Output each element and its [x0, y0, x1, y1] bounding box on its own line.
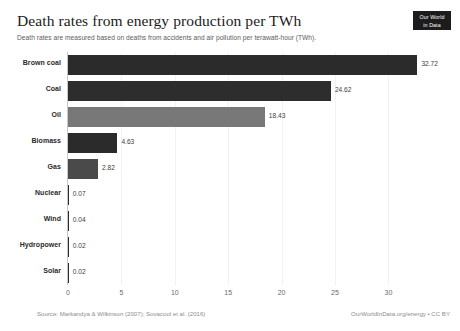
bar-value-label: 18.43	[269, 112, 286, 119]
bar[interactable]	[68, 107, 265, 127]
chart-container: Death rates from energy production per T…	[0, 0, 460, 331]
bar-row[interactable]: Hydropower0.02	[0, 235, 460, 261]
bar-category-label: Solar	[0, 267, 61, 274]
bar-category-label: Hydropower	[0, 241, 61, 248]
bar[interactable]	[68, 237, 69, 257]
our-world-in-data-logo[interactable]: Our World in Data	[413, 11, 451, 30]
bar-value-label: 0.07	[73, 190, 86, 197]
bar-category-label: Oil	[0, 111, 61, 118]
bar-value-label: 2.82	[102, 164, 115, 171]
bar[interactable]	[68, 263, 69, 283]
bar-row[interactable]: Wind0.04	[0, 209, 460, 235]
bar-row[interactable]: Oil18.43	[0, 105, 460, 131]
bar-value-label: 32.72	[421, 60, 438, 67]
chart-header: Death rates from energy production per T…	[17, 12, 397, 41]
attribution-note[interactable]: OurWorldInData.org/energy • CC BY	[351, 310, 450, 317]
x-axis-tick-label: 15	[224, 289, 232, 296]
bar[interactable]	[68, 159, 98, 179]
x-axis: 051015202530	[0, 289, 460, 303]
logo-line-2: in Data	[413, 22, 451, 30]
bar-row[interactable]: Nuclear0.07	[0, 183, 460, 209]
bar[interactable]	[68, 211, 69, 231]
bar-value-label: 4.63	[121, 138, 134, 145]
logo-line-1: Our World	[413, 14, 451, 22]
bar-category-label: Wind	[0, 215, 61, 222]
x-axis-tick-label: 10	[171, 289, 179, 296]
x-axis-tick-label: 5	[119, 289, 123, 296]
x-axis-tick-label: 25	[331, 289, 339, 296]
bar-value-label: 24.62	[335, 86, 352, 93]
bar-row[interactable]: Coal24.62	[0, 79, 460, 105]
bar-row[interactable]: Solar0.02	[0, 261, 460, 287]
bar-value-label: 0.04	[73, 216, 86, 223]
bar[interactable]	[68, 55, 417, 75]
bar-value-label: 0.02	[73, 242, 86, 249]
chart-title: Death rates from energy production per T…	[17, 12, 397, 30]
bar-row[interactable]: Biomass4.63	[0, 131, 460, 157]
bar[interactable]	[68, 185, 69, 205]
bar-category-label: Brown coal	[0, 59, 61, 66]
bar-category-label: Gas	[0, 163, 61, 170]
x-axis-tick-label: 0	[66, 289, 70, 296]
x-axis-tick-label: 30	[384, 289, 392, 296]
plot-area: Brown coal32.72Coal24.62Oil18.43Biomass4…	[0, 52, 460, 292]
bar-category-label: Biomass	[0, 137, 61, 144]
bar[interactable]	[68, 81, 331, 101]
bar[interactable]	[68, 133, 117, 153]
source-note: Source: Markandya & Wilkinson (2007); So…	[37, 310, 205, 317]
bar-category-label: Nuclear	[0, 189, 61, 196]
bar-row[interactable]: Gas2.82	[0, 157, 460, 183]
bar-category-label: Coal	[0, 85, 61, 92]
bar-value-label: 0.02	[73, 268, 86, 275]
chart-subtitle: Death rates are measured based on deaths…	[17, 34, 397, 41]
x-axis-tick-label: 20	[278, 289, 286, 296]
bar-row[interactable]: Brown coal32.72	[0, 53, 460, 79]
